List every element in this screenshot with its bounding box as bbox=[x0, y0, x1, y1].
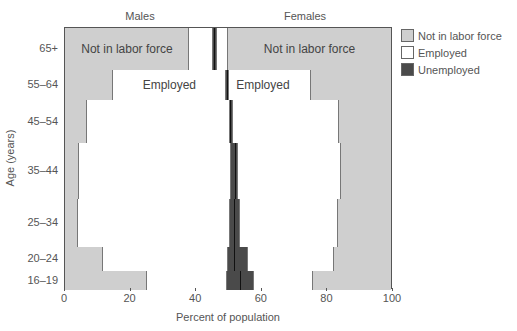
segment-label-female: Employed bbox=[236, 78, 289, 92]
bar-segment-female-not-in-labor-force bbox=[338, 199, 391, 247]
legend-item-nlf: Not in labor force bbox=[401, 27, 502, 44]
panel-title-males: Males bbox=[125, 10, 154, 22]
bar-segment-male-employed bbox=[87, 100, 230, 143]
segment-label-female: Not in labor force bbox=[264, 42, 355, 56]
legend-swatch bbox=[401, 29, 414, 42]
bar-segment-male-employed bbox=[103, 247, 228, 271]
bar-segment-female-not-in-labor-force bbox=[334, 247, 391, 271]
panel-title-females: Females bbox=[284, 10, 326, 22]
y-axis-title: Age (years) bbox=[4, 130, 16, 187]
x-tick-mark bbox=[64, 288, 65, 291]
bar-segment-male-employed bbox=[79, 143, 231, 199]
bar-segment-male-employed bbox=[147, 271, 228, 290]
bar-segment-female-unemployed bbox=[241, 271, 254, 290]
bar-segment-female-employed bbox=[240, 199, 338, 247]
bar-segment-male-not-in-labor-force bbox=[65, 199, 78, 247]
bar-segment-male-employed bbox=[189, 28, 213, 70]
bar-segment-female-not-in-labor-force bbox=[339, 100, 391, 143]
plot-area: Not in labor forceNot in labor forceEmpl… bbox=[64, 27, 392, 289]
segment-label-male: Employed bbox=[143, 78, 196, 92]
legend: Not in labor forceEmployedUnemployed bbox=[401, 27, 502, 78]
legend-item-emp: Employed bbox=[401, 44, 502, 61]
bar-segment-female-employed bbox=[254, 271, 313, 290]
x-axis-title: Percent of population bbox=[64, 311, 392, 323]
bar-segment-female-employed bbox=[248, 247, 335, 271]
bar-segment-male-employed bbox=[78, 199, 230, 247]
x-tick-label: 100 bbox=[383, 292, 401, 304]
x-tick-label: 60 bbox=[255, 292, 267, 304]
bar-segment-male-not-in-labor-force bbox=[65, 247, 103, 271]
y-tick-label: 16–19 bbox=[8, 274, 58, 286]
x-tick-label: 20 bbox=[123, 292, 135, 304]
y-tick-label: 55–64 bbox=[8, 78, 58, 90]
bar-segment-female-unemployed bbox=[235, 247, 248, 271]
labor-force-chart: Males Females Not in labor forceNot in l… bbox=[0, 0, 517, 331]
bar-segment-male-unemployed bbox=[228, 247, 235, 271]
bar-segment-male-unemployed bbox=[227, 271, 241, 290]
legend-swatch bbox=[401, 46, 414, 59]
x-tick-label: 40 bbox=[189, 292, 201, 304]
x-tick-mark bbox=[326, 288, 327, 291]
x-tick-label: 0 bbox=[61, 292, 67, 304]
x-tick-mark bbox=[261, 288, 262, 291]
legend-label: Unemployed bbox=[418, 64, 480, 76]
segment-label-male: Not in labor force bbox=[81, 42, 172, 56]
x-tick-mark bbox=[130, 288, 131, 291]
bar-segment-female-employed bbox=[217, 28, 228, 70]
x-tick-mark bbox=[392, 288, 393, 291]
legend-label: Employed bbox=[418, 47, 467, 59]
legend-swatch bbox=[401, 63, 414, 76]
y-tick-label: 65+ bbox=[8, 42, 58, 54]
y-tick-label: 45–54 bbox=[8, 115, 58, 127]
y-tick-label: 25–34 bbox=[8, 216, 58, 228]
bar-segment-female-not-in-labor-force bbox=[341, 143, 391, 199]
bar-segment-male-not-in-labor-force bbox=[65, 70, 113, 100]
bar-segment-male-not-in-labor-force bbox=[65, 143, 79, 199]
legend-label: Not in labor force bbox=[418, 30, 502, 42]
bar-segment-female-employed bbox=[238, 143, 341, 199]
bar-segment-female-employed bbox=[233, 100, 339, 143]
x-tick-label: 80 bbox=[320, 292, 332, 304]
bar-segment-male-not-in-labor-force bbox=[65, 100, 87, 143]
bar-segment-female-not-in-labor-force bbox=[311, 70, 391, 100]
bar-segment-male-not-in-labor-force bbox=[65, 271, 147, 290]
legend-item-unemp: Unemployed bbox=[401, 61, 502, 78]
bar-segment-female-not-in-labor-force bbox=[313, 271, 391, 290]
y-tick-label: 20–24 bbox=[8, 252, 58, 264]
x-tick-mark bbox=[195, 288, 196, 291]
